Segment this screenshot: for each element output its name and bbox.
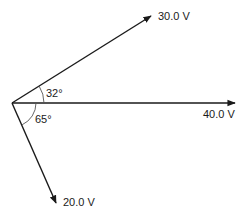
- angle-arc-32: [39, 86, 44, 103]
- angle-label-32: 32°: [46, 88, 63, 99]
- vector-30v-line: [12, 16, 151, 103]
- vector-30v-label: 30.0 V: [158, 11, 190, 22]
- angle-label-65: 65°: [35, 114, 52, 125]
- angle-arc-65: [22, 103, 36, 125]
- vector-40v-label: 40.0 V: [203, 109, 235, 120]
- vector-20v-label: 20.0 V: [63, 197, 95, 208]
